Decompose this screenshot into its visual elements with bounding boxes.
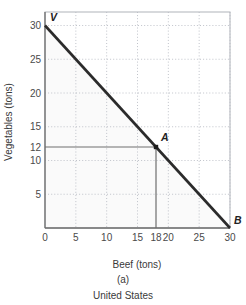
- marker-points-group: [154, 145, 158, 149]
- country-caption: United States: [93, 290, 153, 301]
- y-tick-label-20: 20: [30, 88, 42, 99]
- x-tick-label-15: 15: [132, 232, 144, 243]
- y-tick-label-5: 5: [35, 189, 41, 200]
- x-tick-label-25: 25: [194, 232, 206, 243]
- x-axis-tick-labels: 05101518202530: [42, 232, 236, 243]
- ppf-chart-svg: 05101518202530 5101215202530 VAB Beef (t…: [0, 0, 246, 305]
- y-tick-label-25: 25: [30, 54, 42, 65]
- y-tick-label-30: 30: [30, 20, 42, 31]
- annotation-label-a: A: [160, 131, 169, 143]
- x-tick-label-10: 10: [101, 232, 113, 243]
- y-tick-label-15: 15: [30, 121, 42, 132]
- y-tick-label-10: 10: [30, 155, 42, 166]
- marker-point-a: [154, 145, 158, 149]
- x-tick-label-30: 30: [224, 232, 236, 243]
- x-tick-label-5: 5: [73, 232, 79, 243]
- x-tick-label-18: 18: [150, 232, 162, 243]
- x-axis-title: Beef (tons): [113, 259, 162, 270]
- x-tick-label-20: 20: [163, 232, 175, 243]
- y-axis-title: Vegetables (tons): [3, 83, 14, 161]
- y-tick-label-12: 12: [30, 142, 42, 153]
- x-tick-label-0: 0: [42, 232, 48, 243]
- panel-letter-caption: (a): [117, 274, 129, 285]
- ppf-chart-figure: 05101518202530 5101215202530 VAB Beef (t…: [0, 0, 246, 305]
- annotation-label-v: V: [50, 11, 58, 23]
- annotation-label-b: B: [234, 214, 242, 226]
- y-axis-tick-labels: 5101215202530: [30, 20, 42, 200]
